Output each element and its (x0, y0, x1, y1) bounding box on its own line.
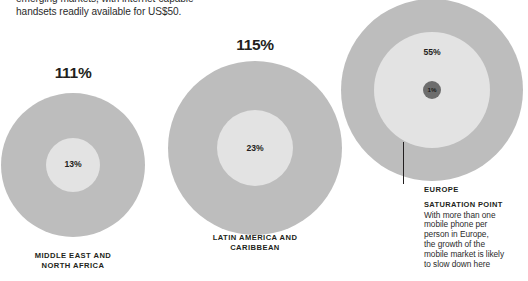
outer-value-text-1: 111% (55, 64, 92, 81)
intro-line-2: handsets readily available for US$50. (16, 6, 246, 19)
caption-line-3a: EUROPE (424, 185, 459, 194)
annotation-saturation-point: SATURATION POINT With more than one mobi… (424, 200, 520, 270)
region-caption-latin-america-caribbean: LATIN AMERICA AND CARIBBEAN (185, 233, 325, 254)
intro-paragraph: emerging markets, with internet-capable … (16, 0, 246, 18)
caption-line-2b: CARIBBEAN (230, 243, 280, 252)
annotation-line-6: to slow down here (424, 260, 520, 270)
caption-line-2a: LATIN AMERICA AND (213, 233, 298, 242)
annotation-title: SATURATION POINT (424, 200, 520, 210)
circle-group-europe: 55% 1% (341, 0, 523, 181)
caption-line-1a: MIDDLE EAST AND (35, 251, 112, 260)
outer-value-middle-east-north-africa: 111% (23, 64, 123, 82)
core-value-europe: 1% (423, 86, 441, 93)
region-caption-europe: EUROPE (424, 185, 524, 195)
outer-value-latin-america-caribbean: 115% (205, 36, 305, 54)
outer-value-text-2: 115% (236, 36, 274, 53)
inner-value-europe: 55% (374, 47, 490, 57)
inner-value-latin-america-caribbean: 23% (217, 143, 293, 153)
annotation-body: With more than one mobile phone per pers… (424, 211, 520, 270)
leader-line-europe (403, 142, 404, 184)
circle-group-middle-east-north-africa: 13% (1, 93, 145, 237)
region-caption-middle-east-north-africa: MIDDLE EAST AND NORTH AFRICA (3, 251, 143, 272)
circle-group-latin-america-caribbean: 23% (168, 61, 342, 235)
inner-value-middle-east-north-africa: 13% (46, 159, 100, 169)
caption-line-1b: NORTH AFRICA (42, 261, 105, 270)
